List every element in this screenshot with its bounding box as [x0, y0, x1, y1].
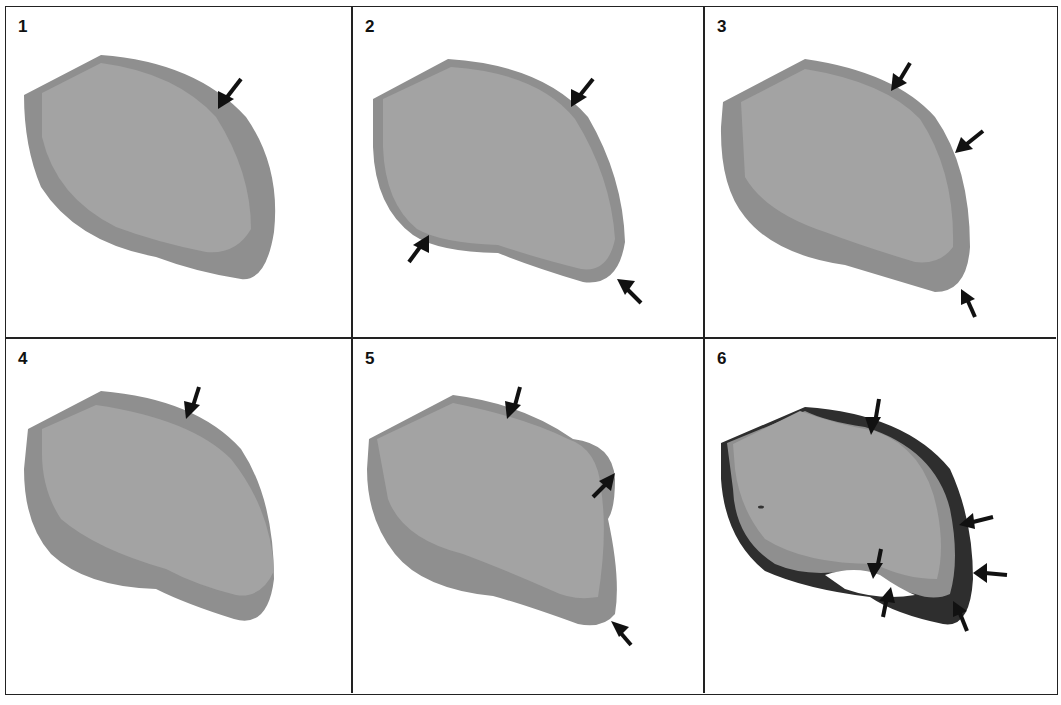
- arrow-icon: [973, 563, 1007, 583]
- cross-section-shape: [705, 339, 1057, 693]
- arrow-icon: [617, 279, 641, 303]
- cross-section-shape: [353, 339, 703, 693]
- cross-section-shape: [6, 339, 351, 693]
- cross-section-shape: [353, 7, 703, 337]
- arrow-icon: [955, 131, 983, 153]
- arrow-icon: [611, 621, 631, 645]
- arrow-icon: [891, 63, 910, 91]
- panel-2: 2: [353, 7, 703, 337]
- cross-section-shape: [705, 7, 1057, 337]
- arrow-icon: [409, 235, 429, 262]
- figure-grid: 1 2 3 4: [5, 6, 1058, 695]
- panel-4: 4: [6, 339, 351, 693]
- panel-6: 6: [705, 339, 1057, 693]
- panel-5: 5: [353, 339, 703, 693]
- arrow-icon: [961, 289, 975, 317]
- cross-section-shape: [6, 7, 351, 337]
- arrow-icon: [571, 79, 593, 107]
- panel-1: 1: [6, 7, 351, 337]
- panel-3: 3: [705, 7, 1057, 337]
